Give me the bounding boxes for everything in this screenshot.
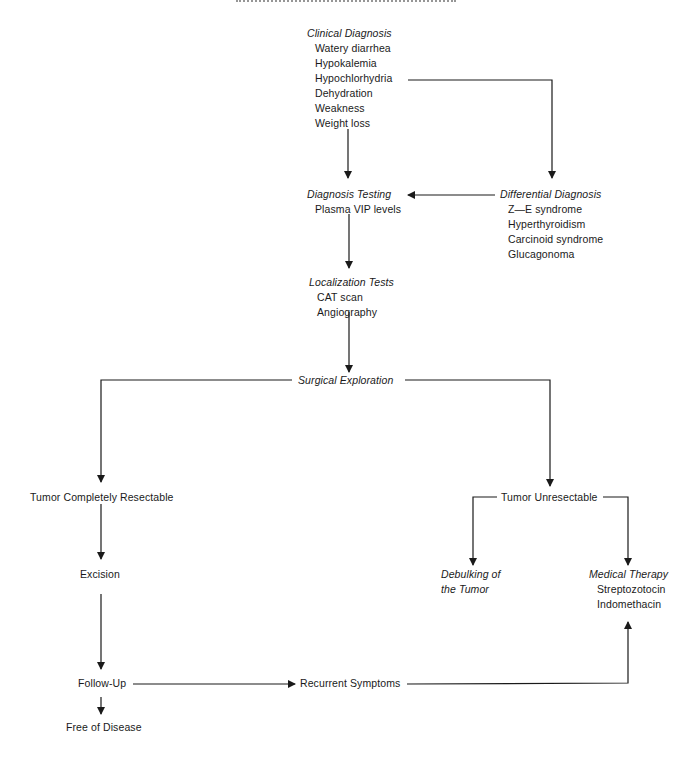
medical-therapy-item: Streptozotocin [589,582,668,597]
follow-up-node: Follow-Up [78,676,126,691]
arrow-clinical-to-differential [408,80,552,178]
tumor-resectable-node: Tumor Completely Resectable [30,490,174,505]
medical-therapy-node: Medical Therapy Streptozotocin Indometha… [589,567,668,612]
clinical-item: Weakness [307,101,392,116]
clinical-item: Watery diarrhea [307,41,392,56]
clinical-diagnosis-node: Clinical Diagnosis Watery diarrhea Hypok… [307,26,392,131]
arrow-unresectable-to-medical [603,497,628,565]
debulking-line-2: the Tumor [441,582,501,597]
diagnosis-testing-node: Diagnosis Testing Plasma VIP levels [307,187,401,217]
differential-diagnosis-node: Differential Diagnosis Z—E syndrome Hype… [500,187,603,262]
arrow-surgical-to-resectable [101,380,292,482]
surgical-exploration-node: Surgical Exploration [298,373,393,388]
recurrent-symptoms-node: Recurrent Symptoms [300,676,400,691]
medical-therapy-title: Medical Therapy [589,567,668,582]
clinical-diagnosis-title: Clinical Diagnosis [307,26,392,41]
medical-therapy-item: Indomethacin [589,597,668,612]
localization-item: Angiography [309,305,394,320]
diagnosis-testing-item: Plasma VIP levels [307,202,401,217]
clinical-item: Hypokalemia [307,56,392,71]
arrow-recurrent-to-medical [407,622,628,684]
debulking-node: Debulking of the Tumor [441,567,501,597]
arrow-unresectable-to-debulking [473,497,497,565]
diagnosis-testing-title: Diagnosis Testing [307,187,401,202]
debulking-line-1: Debulking of [441,567,501,582]
differential-diagnosis-title: Differential Diagnosis [500,187,603,202]
localization-item: CAT scan [309,290,394,305]
arrow-surgical-to-unresectable [405,380,550,486]
free-of-disease-node: Free of Disease [66,720,142,735]
differential-item: Glucagonoma [500,247,603,262]
clinical-item: Dehydration [307,86,392,101]
differential-item: Carcinoid syndrome [500,232,603,247]
localization-tests-title: Localization Tests [309,275,394,290]
differential-item: Hyperthyroidism [500,217,603,232]
differential-item: Z—E syndrome [500,202,603,217]
clinical-item: Hypochlorhydria [307,71,392,86]
clinical-item: Weight loss [307,116,392,131]
localization-tests-node: Localization Tests CAT scan Angiography [309,275,394,320]
tumor-unresectable-node: Tumor Unresectable [501,490,598,505]
excision-node: Excision [80,567,120,582]
